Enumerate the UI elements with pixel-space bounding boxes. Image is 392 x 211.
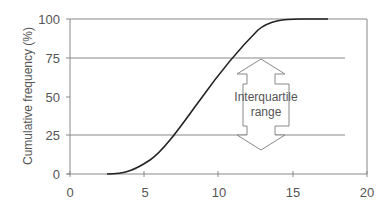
- y-tick-label: 100: [38, 12, 60, 27]
- annotation-line-1: Interquartile: [234, 90, 298, 104]
- cumulative-frequency-chart: 100 75 50 25 0 0 5 10 15 20 Cumulative f…: [0, 0, 392, 211]
- x-tick-label: 15: [286, 185, 300, 200]
- y-tick-marks: [66, 19, 70, 174]
- x-tick-label: 0: [66, 185, 73, 200]
- y-tick-label: 25: [46, 128, 60, 143]
- x-tick-label: 5: [141, 185, 148, 200]
- y-tick-label: 50: [46, 90, 60, 105]
- annotation-line-2: range: [251, 105, 282, 119]
- y-axis-title: Cumulative frequency (%): [21, 27, 35, 165]
- x-tick-label: 20: [360, 185, 374, 200]
- x-tick-label: 10: [212, 185, 226, 200]
- y-tick-label: 0: [53, 167, 60, 182]
- y-tick-label: 75: [46, 51, 60, 66]
